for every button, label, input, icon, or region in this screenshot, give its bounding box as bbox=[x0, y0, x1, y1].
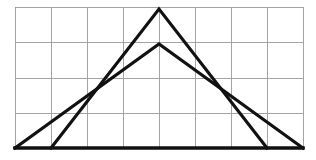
figure-container: Two overlapping triangles on a rectangul… bbox=[0, 0, 316, 160]
triangles-grid-figure: Two overlapping triangles on a rectangul… bbox=[0, 0, 316, 160]
figure-background bbox=[0, 0, 316, 160]
